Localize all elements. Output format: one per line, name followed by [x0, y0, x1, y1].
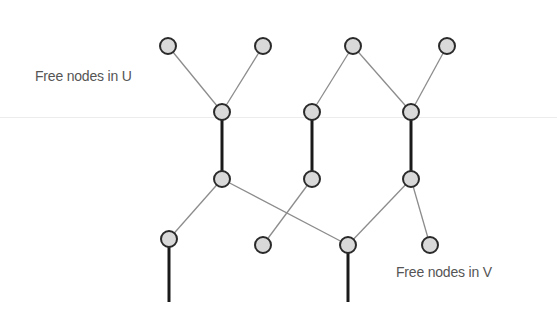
graph-node-u1 [160, 38, 176, 54]
edge [263, 179, 312, 245]
graph-node-v5 [255, 237, 271, 253]
free-nodes-u-label: Free nodes in U [35, 68, 132, 84]
edge [353, 46, 411, 112]
graph-node-v1 [214, 104, 230, 120]
graph-node-v2 [304, 104, 320, 120]
graph-node-v3 [403, 104, 419, 120]
edge [312, 46, 353, 112]
edge [169, 179, 222, 239]
graph-node-u2 [255, 38, 271, 54]
free-nodes-v-label: Free nodes in V [396, 264, 492, 280]
graph-node-u4 [439, 38, 455, 54]
graph-node-u5 [214, 171, 230, 187]
edge [168, 46, 222, 112]
graph-node-u3 [345, 38, 361, 54]
edge [411, 179, 430, 245]
edge [222, 179, 348, 245]
edge [411, 46, 447, 112]
edge [348, 179, 411, 245]
graph-node-v6 [340, 237, 356, 253]
graph-node-v4 [161, 231, 177, 247]
graph-node-u7 [403, 171, 419, 187]
edge [222, 46, 263, 112]
graph-node-v7 [422, 237, 438, 253]
graph-node-u6 [304, 171, 320, 187]
